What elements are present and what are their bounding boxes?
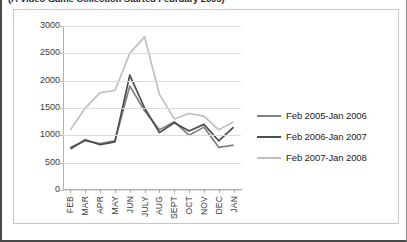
x-axis-tick-label: NOV xyxy=(199,196,209,215)
x-axis-tick-label: JUN xyxy=(125,196,135,213)
y-axis-tick-mark xyxy=(59,163,63,164)
x-axis-tick-label: DEC xyxy=(214,196,224,215)
legend-color-swatch xyxy=(257,136,281,138)
gridline xyxy=(63,81,241,82)
y-axis-labels: 050010001500200025003000 xyxy=(20,26,60,190)
x-axis-tick-mark xyxy=(100,189,101,193)
x-axis-tick-label: FEB xyxy=(65,196,75,213)
y-axis-tick-label: 2500 xyxy=(24,48,60,57)
y-axis-tick-label: 500 xyxy=(24,158,60,167)
x-axis-tick-label: APR xyxy=(95,196,105,214)
y-axis-tick-label: 0 xyxy=(24,185,60,194)
chart-page: (A Video Game Collection Started Februar… xyxy=(0,0,407,242)
gridline xyxy=(63,190,241,191)
y-axis-tick-label: 3000 xyxy=(24,21,60,30)
x-axis-tick-mark xyxy=(115,189,116,193)
x-axis-tick-mark xyxy=(145,189,146,193)
legend-label: Feb 2006-Jan 2007 xyxy=(286,131,367,142)
y-axis-tick-mark xyxy=(59,135,63,136)
x-axis-tick-label: MAY xyxy=(110,196,120,214)
y-axis-tick-label: 1500 xyxy=(24,103,60,112)
legend-label: Feb 2005-Jan 2006 xyxy=(286,110,367,121)
x-axis-tick-label: MAR xyxy=(80,196,90,216)
x-axis-tick-mark xyxy=(174,189,175,193)
gridline xyxy=(63,53,241,54)
gridline xyxy=(63,108,241,109)
x-axis-tick-mark xyxy=(234,189,235,193)
x-axis-tick-label: SEPT xyxy=(169,196,179,219)
chart-container: 050010001500200025003000 Feb 2005-Jan 20… xyxy=(13,9,399,224)
legend-item[interactable]: Feb 2006-Jan 2007 xyxy=(257,126,395,147)
legend-color-swatch xyxy=(257,157,281,159)
y-axis-tick-mark xyxy=(59,108,63,109)
x-axis-tick-label: OCT xyxy=(184,196,194,215)
chart-caption: (A Video Game Collection Started Februar… xyxy=(8,0,398,5)
series-line xyxy=(70,86,233,147)
series-line xyxy=(70,75,233,149)
x-axis-tick-mark xyxy=(130,189,131,193)
y-axis-tick-label: 1000 xyxy=(24,130,60,139)
y-axis-tick-mark xyxy=(59,81,63,82)
y-axis-tick-mark xyxy=(59,26,63,27)
gridline xyxy=(63,163,241,164)
y-axis-tick-label: 2000 xyxy=(24,76,60,85)
x-axis-tick-label: JULY xyxy=(140,196,150,217)
x-axis-tick-label: AUG xyxy=(154,196,164,215)
x-axis-tick-mark xyxy=(85,189,86,193)
legend-item[interactable]: Feb 2005-Jan 2006 xyxy=(257,105,395,126)
chart-legend: Feb 2005-Jan 2006Feb 2006-Jan 2007Feb 20… xyxy=(257,105,395,168)
x-axis-tick-mark xyxy=(70,189,71,193)
x-axis-tick-mark xyxy=(159,189,160,193)
x-axis-tick-label: JAN xyxy=(229,196,239,213)
x-axis-tick-mark xyxy=(189,189,190,193)
y-axis-tick-mark xyxy=(59,190,63,191)
plot-area xyxy=(63,26,241,190)
legend-item[interactable]: Feb 2007-Jan 2008 xyxy=(257,147,395,168)
y-axis-tick-mark xyxy=(59,53,63,54)
legend-label: Feb 2007-Jan 2008 xyxy=(286,152,367,163)
series-line xyxy=(70,37,233,130)
gridline xyxy=(63,26,241,27)
legend-color-swatch xyxy=(257,115,281,117)
x-axis-tick-mark xyxy=(204,189,205,193)
gridline xyxy=(63,135,241,136)
x-axis-tick-mark xyxy=(219,189,220,193)
